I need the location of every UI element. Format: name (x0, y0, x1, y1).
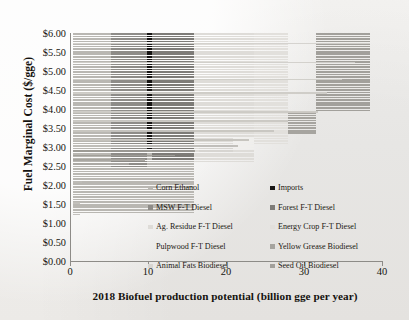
legend-item[interactable]: Ag. Residue F-T Diesel (148, 223, 233, 231)
bar-segment (194, 36, 254, 38)
supply-step (73, 191, 82, 193)
bar-segment (254, 71, 288, 73)
bar-segment (194, 51, 254, 53)
bar-segment (288, 117, 317, 119)
bar-segment (316, 71, 369, 73)
bar-segment (254, 102, 288, 104)
bar-segment (194, 89, 254, 91)
bar-segment (152, 132, 194, 134)
bar-segment (111, 64, 148, 66)
bar-segment (152, 48, 194, 50)
y-tick-label: $5.00 (26, 66, 66, 77)
supply-step (73, 43, 370, 45)
bar-segment (194, 155, 254, 157)
bar-segment (254, 127, 288, 129)
bar-segment (316, 46, 369, 48)
bar-segment (194, 127, 254, 129)
legend-label: MSW F-T Diesel (156, 204, 212, 212)
bar-segment (316, 97, 369, 99)
bar-segment (152, 89, 194, 91)
bar-segment (254, 115, 288, 117)
bar-segment (152, 69, 194, 71)
bar-segment (254, 33, 288, 35)
bar-segment (194, 48, 254, 50)
legend-item[interactable]: Seed Oil Biodiesel (270, 262, 339, 270)
legend-item[interactable]: Corn Ethanol (148, 184, 199, 192)
bar-segment (288, 122, 317, 124)
bar-segment (111, 143, 148, 145)
bar-segment (316, 104, 369, 106)
bar-segment (152, 122, 194, 124)
supply-step (73, 150, 195, 152)
bar-segment (111, 89, 148, 91)
bar-segment (111, 46, 148, 48)
bar-segment (288, 132, 317, 134)
bar-segment (152, 125, 194, 127)
y-tick-label: $2.00 (26, 180, 66, 191)
legend-item[interactable]: Animal Fats Biodiesel (148, 262, 228, 270)
y-axis-tick-labels: $0.00$0.50$1.00$1.50$2.00$2.50$3.00$3.50… (22, 33, 66, 261)
supply-step (73, 120, 289, 122)
y-tick-label: $1.00 (26, 218, 66, 229)
legend-item[interactable]: Yellow Grease Biodiesel (270, 243, 358, 251)
legend-label: Seed Oil Biodiesel (278, 262, 339, 270)
bar-segment (194, 87, 254, 89)
bar-segment (254, 87, 288, 89)
y-tick-label: $4.00 (26, 104, 66, 115)
legend-label: Energy Crop F-T Diesel (278, 223, 356, 231)
bar-segment (152, 64, 194, 66)
bar-segment (111, 69, 148, 71)
bar-segment (194, 153, 254, 155)
legend-label: Animal Fats Biodiesel (156, 262, 228, 270)
bar-segment (316, 102, 369, 104)
bar-segment (111, 107, 148, 109)
bar-segment (111, 102, 148, 104)
legend-swatch-icon (148, 186, 153, 191)
bar-segment (152, 104, 194, 106)
bar-segment (111, 97, 148, 99)
bar-segment (111, 166, 148, 168)
y-tick-label: $1.50 (26, 199, 66, 210)
bar-segment (194, 84, 254, 86)
legend-item[interactable]: Imports (270, 184, 303, 192)
x-tick-label: 0 (67, 266, 72, 277)
bar-segment (194, 56, 254, 58)
bar-segment (316, 87, 369, 89)
bar-segment (254, 69, 288, 71)
bar-segment (194, 66, 254, 68)
bar-segment (316, 99, 369, 101)
bar-segment (233, 143, 254, 145)
legend-swatch-icon (148, 264, 153, 269)
bar-segment (194, 135, 254, 137)
legend-label: Ag. Residue F-T Diesel (156, 223, 233, 231)
bar-segment (194, 46, 254, 48)
legend-item[interactable]: Pulpwood F-T Diesel (148, 243, 226, 251)
bar-segment (194, 102, 254, 104)
supply-step (73, 139, 250, 141)
supply-step (73, 79, 342, 81)
supply-step (73, 181, 83, 183)
bar-segment (316, 53, 369, 55)
bar-segment (199, 150, 233, 152)
bar-segment (111, 117, 148, 119)
bar-segment (194, 99, 254, 101)
bar-segment (199, 148, 233, 150)
bar-segment (254, 132, 288, 134)
y-tick-label: $4.50 (26, 85, 66, 96)
bar-segment (111, 33, 148, 35)
y-tick-label: $3.00 (26, 142, 66, 153)
bar-segment (152, 127, 194, 129)
legend-item[interactable]: Energy Crop F-T Diesel (270, 223, 356, 231)
bar-segment (152, 99, 194, 101)
bar-segment (254, 48, 288, 50)
legend-item[interactable]: MSW F-T Diesel (148, 204, 212, 212)
bar-segment (152, 33, 194, 35)
legend-swatch-icon (270, 225, 275, 230)
bar-segment (152, 158, 194, 160)
bar-segment (111, 56, 148, 58)
y-tick-label: $3.50 (26, 123, 66, 134)
supply-step (73, 159, 145, 161)
bar-segment (254, 135, 288, 137)
legend-item[interactable]: Forest F-T Diesel (270, 204, 335, 212)
biofuel-supply-curve-figure: Fuel Marginal Cost ($/gge) $0.00$0.50$1.… (0, 0, 409, 320)
